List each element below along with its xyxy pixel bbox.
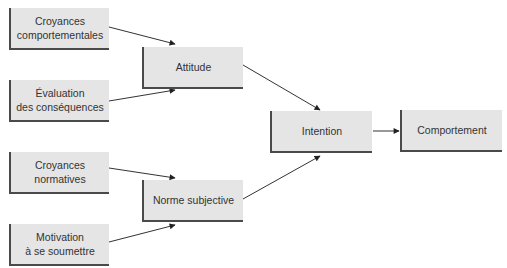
- node-comportement: Comportement: [400, 110, 502, 152]
- node-croyances-comportementales: Croyances comportementales: [9, 8, 109, 50]
- node-attitude: Attitude: [142, 47, 243, 89]
- node-norme-subjective: Norme subjective: [142, 180, 243, 222]
- edge-attitude-to-intention: [243, 65, 320, 110]
- edge-croyances-comportementales-to-attitude: [109, 27, 175, 44]
- edge-motivation-to-norme: [109, 225, 175, 242]
- node-croyances-normatives: Croyances normatives: [9, 152, 109, 194]
- node-motivation-soumettre: Motivation à se soumettre: [9, 224, 109, 266]
- node-intention: Intention: [270, 111, 372, 153]
- edge-evaluation-to-attitude: [109, 90, 175, 101]
- edge-norme-to-intention: [243, 156, 320, 199]
- edge-croyances-normatives-to-norme: [109, 168, 175, 178]
- node-evaluation-consequences: Évaluation des conséquences: [9, 80, 109, 122]
